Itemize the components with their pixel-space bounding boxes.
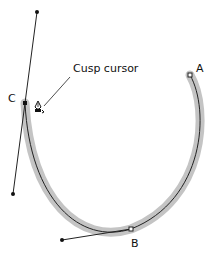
anchor-point-c[interactable] bbox=[23, 101, 27, 105]
direction-point-bottom[interactable] bbox=[11, 192, 15, 196]
label-b: B bbox=[131, 237, 139, 250]
anchor-point-a[interactable] bbox=[188, 73, 192, 77]
direction-point-b[interactable] bbox=[60, 238, 64, 242]
direction-point-top[interactable] bbox=[35, 10, 39, 14]
cusp-cursor-label: Cusp cursor bbox=[73, 62, 139, 75]
bezier-path[interactable] bbox=[25, 75, 200, 232]
pen-cusp-cursor-icon bbox=[35, 101, 44, 113]
direction-line-c-top bbox=[25, 12, 37, 103]
direction-line-c-bottom bbox=[13, 103, 25, 194]
label-c: C bbox=[8, 92, 16, 105]
path-highlight bbox=[25, 75, 200, 232]
leader-line bbox=[44, 77, 70, 106]
anchor-point-b[interactable] bbox=[129, 227, 133, 231]
bezier-diagram: C A B Cusp cursor bbox=[0, 0, 222, 255]
label-a: A bbox=[196, 62, 204, 75]
